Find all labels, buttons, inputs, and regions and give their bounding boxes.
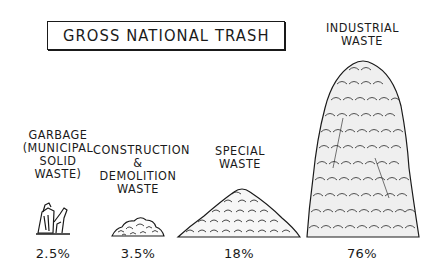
chart-title: GROSS NATIONAL TRASH: [63, 26, 270, 45]
special-waste-pile-icon: [176, 184, 302, 240]
value-label-special: 18%: [214, 246, 264, 261]
garbage-bag-icon: [34, 200, 72, 236]
chart-title-box: GROSS NATIONAL TRASH: [47, 21, 285, 50]
construction-pile-icon: [110, 212, 166, 238]
value-label-industrial: 76%: [334, 246, 390, 261]
value-label-garbage: 2.5%: [28, 246, 78, 261]
value-label-construction: 3.5%: [112, 246, 164, 261]
industrial-waste-pile-icon: [303, 58, 423, 240]
category-label-industrial: INDUSTRIAL WASTE: [326, 21, 398, 47]
category-label-construction: CONSTRUCTION & DEMOLITION WASTE: [93, 143, 183, 195]
category-label-special: SPECIAL WASTE: [213, 144, 267, 170]
